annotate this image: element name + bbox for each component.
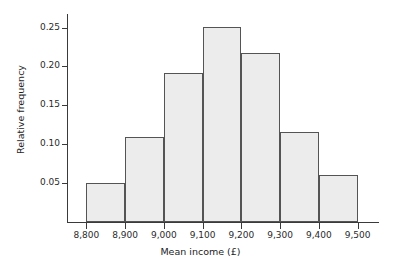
y-axis-tick: [62, 28, 68, 29]
y-axis-tick: [62, 105, 68, 106]
histogram-bar: [164, 73, 203, 222]
x-axis-tick: [86, 223, 87, 229]
x-axis-tick-label: 9,400: [297, 231, 341, 240]
x-axis-tick-label: 8,800: [64, 231, 108, 240]
y-axis-tick: [62, 183, 68, 184]
histogram-figure: Relative frequency Mean income (£) 0.050…: [0, 0, 401, 268]
y-axis-tick-label-text: 0.15: [30, 100, 60, 109]
x-axis-tick-label: 9,500: [336, 231, 380, 240]
y-axis-tick-label: 0.25: [26, 23, 60, 33]
histogram-bar: [203, 27, 242, 222]
y-axis-tick-label: 0.15: [26, 100, 60, 110]
y-axis-tick-label: 0.20: [26, 61, 60, 71]
y-axis-tick-label-text: 0.25: [30, 23, 60, 32]
x-axis-tick: [125, 223, 126, 229]
y-axis-tick-label-text: 0.20: [30, 61, 60, 70]
y-axis-title: Relative frequency: [15, 45, 26, 175]
x-axis-tick-label: 9,100: [181, 231, 225, 240]
x-axis-tick: [280, 223, 281, 229]
x-axis-tick-label: 9,000: [142, 231, 186, 240]
y-axis-tick: [62, 66, 68, 67]
x-axis-title: Mean income (£): [0, 246, 401, 257]
x-axis-tick: [319, 223, 320, 229]
y-axis-tick-label-text: 0.10: [30, 139, 60, 148]
x-axis-tick-label: 9,300: [258, 231, 302, 240]
histogram-bar: [241, 53, 280, 222]
y-axis-tick-label-text: 0.05: [30, 178, 60, 187]
histogram-bar: [319, 175, 358, 222]
y-axis-tick-label: 0.10: [26, 139, 60, 149]
x-axis-tick: [164, 223, 165, 229]
x-axis-tick-label: 8,900: [103, 231, 147, 240]
x-axis-line: [67, 222, 379, 223]
x-axis-tick: [203, 223, 204, 229]
x-axis-tick-label: 9,200: [219, 231, 263, 240]
histogram-bar: [125, 137, 164, 222]
histogram-bar: [86, 183, 125, 222]
x-axis-tick: [241, 223, 242, 229]
histogram-bar: [280, 132, 319, 222]
y-axis-tick-label: 0.05: [26, 178, 60, 188]
y-axis-tick: [62, 144, 68, 145]
plot-area: [68, 14, 378, 222]
x-axis-tick: [358, 223, 359, 229]
